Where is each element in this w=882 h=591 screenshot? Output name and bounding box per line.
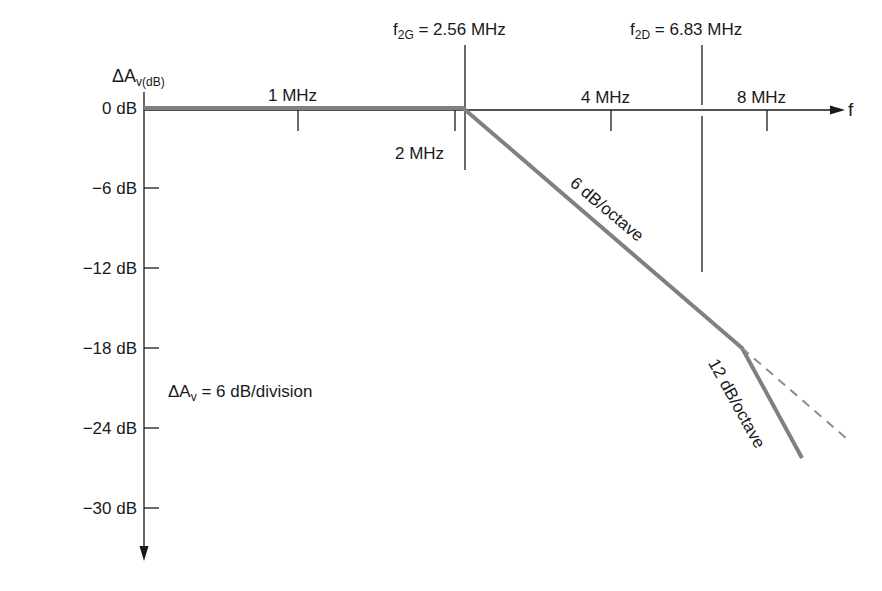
bode-curve [144,108,802,458]
f2g-subscript: 2G [398,28,414,42]
division-note: ΔAv = 6 dB/division [168,383,312,400]
y-tick-label-5: −30 dB [83,500,137,517]
division-note-symbol: ΔA [168,382,191,401]
x-tick-label-1mhz: 1 MHz [268,87,317,104]
x-ticks [298,110,767,131]
y-axis-arrow-icon [140,546,149,561]
x-tick-label-2mhz: 2 MHz [395,145,444,162]
f2d-value: = 6.83 MHz [650,20,742,39]
y-tick-label-3: −18 dB [83,340,137,357]
x-tick-label-4mhz: 4 MHz [581,89,630,106]
y-tick-label-2: −12 dB [83,260,137,277]
x-axis-title: f [848,100,853,119]
division-note-value: = 6 dB/division [197,382,313,401]
y-axis-title-main: ΔA [112,66,136,86]
y-tick-label-1: −6 dB [92,180,137,197]
f2d-annotation: f2D = 6.83 MHz [630,21,742,38]
y-axis-title-sub: v(dB) [136,75,165,89]
f2g-annotation: f2G = 2.56 MHz [393,21,506,38]
x-axis-arrow-icon [830,106,845,115]
f2g-value: = 2.56 MHz [414,20,506,39]
f2d-subscript: 2D [635,28,650,42]
x-tick-label-8mhz: 8 MHz [737,89,786,106]
y-tick-label-0: 0 dB [102,100,137,117]
y-tick-label-4: −24 dB [83,420,137,437]
y-ticks [144,188,159,508]
y-axis-title: ΔAv(dB) [112,67,165,85]
